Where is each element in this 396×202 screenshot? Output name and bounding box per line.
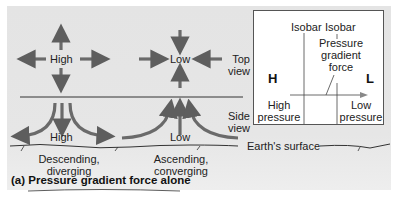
- top-view-label: Top view: [220, 53, 250, 77]
- figure-caption: (a) Pressure gradient force alone: [11, 174, 191, 186]
- h-symbol: H: [268, 73, 277, 85]
- side-low-arrow-left: [122, 108, 170, 138]
- side-high-label: High: [50, 131, 73, 143]
- earth-surface-label: Earth's surface: [247, 140, 320, 152]
- isobar-right-label: Isobar: [325, 21, 356, 33]
- side-high-arrow-right: [70, 103, 106, 136]
- low-pressure-label: Low pressure: [338, 99, 384, 123]
- force-pointer-line: [326, 75, 334, 95]
- top-high-label: High: [50, 53, 73, 65]
- isobar-inset-box: Isobar Isobar Pressure gradient force H …: [253, 10, 384, 125]
- side-view-label: Side view: [218, 110, 250, 134]
- earth-surface-line-right: [320, 144, 390, 148]
- isobar-left-label: Isobar: [291, 21, 322, 33]
- l-symbol: L: [366, 73, 374, 85]
- caption-underline: [28, 190, 180, 192]
- pressure-gradient-force-label: Pressure gradient force: [316, 37, 366, 73]
- top-low-label: Low: [170, 53, 190, 65]
- force-arrowhead: [360, 92, 368, 98]
- earth-surface-line: [10, 145, 238, 148]
- side-low-label: Low: [170, 131, 190, 143]
- high-pressure-label: High pressure: [256, 99, 302, 123]
